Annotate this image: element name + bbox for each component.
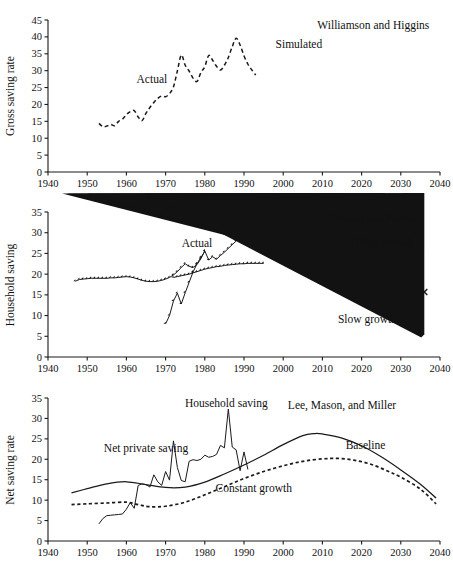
net-x-ticklabel: 2040 (430, 547, 451, 558)
household-marker-diamond (132, 276, 134, 278)
net-annotation-net-private-saving: Net private saving (104, 442, 189, 455)
saving-rate-figure: 0510152025303540451940195019601970198019… (0, 0, 453, 573)
gross-y-ticklabel: 20 (32, 99, 43, 110)
household-marker-diamond (171, 299, 173, 301)
household-x-ticklabel: 2040 (430, 363, 451, 374)
household-marker-diamond (230, 263, 232, 265)
household-marker-diamond (97, 276, 99, 278)
household-marker-diamond (128, 275, 130, 277)
gross-x-ticklabel: 1940 (38, 178, 59, 189)
household-marker-diamond (175, 270, 177, 272)
household-marker-diamond (105, 276, 107, 278)
household-marker-diamond (238, 262, 240, 264)
net-y-axis-title: Net saving rate (4, 435, 17, 505)
chart-net-saving-rate: 0510152025303519401950196019701980199020… (0, 380, 453, 573)
gross-annotation-actual: Actual (137, 73, 168, 85)
gross-x-ticklabel: 1970 (155, 178, 176, 189)
net-y-ticklabel: 15 (32, 474, 43, 485)
household-x-ticklabel: 2010 (312, 363, 333, 374)
gross-x-ticklabel: 2010 (312, 178, 333, 189)
household-marker-diamond (215, 265, 217, 267)
household-marker-diamond (199, 256, 201, 258)
household-y-ticklabel: 10 (32, 310, 43, 321)
net-annotation-household-saving: Household saving (185, 397, 268, 410)
panel-net-saving-rate: 0510152025303519401950196019701980199020… (0, 380, 453, 573)
net-y-ticklabel: 30 (32, 413, 43, 424)
net-x-ticklabel: 2030 (390, 547, 411, 558)
household-marker-diamond (230, 243, 232, 245)
net-x-ticklabel: 1950 (77, 547, 98, 558)
household-marker-diamond (211, 255, 213, 257)
net-y-ticklabel: 0 (37, 536, 42, 547)
household-marker-diamond (81, 277, 83, 279)
gross-y-ticklabel: 45 (32, 15, 43, 26)
household-marker-diamond (262, 261, 264, 263)
net-annotation-baseline: Baseline (346, 439, 386, 451)
panel-household-saving: 0510152025303519401950196019701980199020… (0, 193, 453, 383)
gross-x-ticklabel: 1980 (194, 178, 215, 189)
household-y-axis-title: Household saving (4, 243, 17, 326)
household-y-ticklabel: 25 (32, 248, 43, 259)
household-marker-diamond (144, 279, 146, 281)
household-marker-diamond (168, 314, 170, 316)
gross-y-ticklabel: 10 (32, 133, 43, 144)
household-annotation-actual: Actual (182, 237, 213, 249)
household-y-ticklabel: 15 (32, 289, 43, 300)
household-marker-diamond (203, 267, 205, 269)
household-x-ticklabel: 1950 (77, 363, 98, 374)
gross-y-axis-title: Gross saving rate (4, 56, 17, 136)
net-y-ticklabel: 10 (32, 495, 43, 506)
gross-x-ticklabel: 1960 (116, 178, 137, 189)
household-marker-diamond (175, 275, 177, 277)
chart-gross-saving-rate: 0510152025303540451940195019601970198019… (0, 0, 453, 196)
household-marker-diamond (179, 274, 181, 276)
gross-x-ticklabel: 2000 (273, 178, 294, 189)
gross-y-ticklabel: 0 (37, 167, 42, 178)
household-marker-diamond (152, 280, 154, 282)
household-marker-diamond (199, 268, 201, 270)
household-marker-diamond (156, 279, 158, 281)
net-y-ticklabel: 5 (37, 515, 42, 526)
household-y-ticklabel: 35 (32, 207, 43, 218)
net-series-net-private-saving (99, 409, 248, 524)
household-y-ticklabel: 20 (32, 269, 43, 280)
household-y-ticklabel: 0 (37, 352, 42, 363)
household-marker-diamond (164, 277, 166, 279)
gross-y-ticklabel: 15 (32, 116, 43, 127)
net-x-ticklabel: 1940 (38, 547, 59, 558)
gross-y-ticklabel: 25 (32, 82, 43, 93)
household-marker-diamond (89, 276, 91, 278)
household-marker-diamond (117, 275, 119, 277)
net-x-ticklabel: 2010 (312, 547, 333, 558)
household-marker-diamond (250, 261, 252, 263)
household-marker-diamond (226, 263, 228, 265)
net-x-ticklabel: 2020 (351, 547, 372, 558)
household-marker-diamond (183, 291, 185, 293)
chart-household-saving: 0510152025303519401950196019701980199020… (0, 193, 453, 383)
household-marker-diamond (218, 264, 220, 266)
gross-annotation-williamson-and-higgins: Williamson and Higgins (317, 19, 429, 32)
household-marker-diamond (164, 322, 166, 324)
net-annotation-lee-mason-and-miller: Lee, Mason, and Miller (288, 399, 396, 412)
gross-x-ticklabel: 2020 (351, 178, 372, 189)
household-marker-diamond (234, 262, 236, 264)
net-y-ticklabel: 25 (32, 433, 43, 444)
gross-annotation-simulated: Simulated (276, 38, 323, 50)
household-marker-diamond (124, 275, 126, 277)
household-x-ticklabel: 1960 (116, 363, 137, 374)
net-y-ticklabel: 35 (32, 393, 43, 404)
household-y-ticklabel: 30 (32, 227, 43, 238)
household-marker-diamond (195, 270, 197, 272)
household-marker-diamond (218, 254, 220, 256)
household-marker-diamond (175, 291, 177, 293)
household-marker-diamond (191, 270, 193, 272)
household-x-ticklabel: 2000 (273, 363, 294, 374)
gross-x-ticklabel: 2030 (390, 178, 411, 189)
household-marker-diamond (93, 276, 95, 278)
household-marker-diamond (222, 263, 224, 265)
household-marker-diamond (183, 273, 185, 275)
household-y-ticklabel: 5 (37, 331, 42, 342)
gross-x-ticklabel: 1990 (234, 178, 255, 189)
household-x-ticklabel: 2030 (390, 363, 411, 374)
household-marker-diamond (120, 275, 122, 277)
